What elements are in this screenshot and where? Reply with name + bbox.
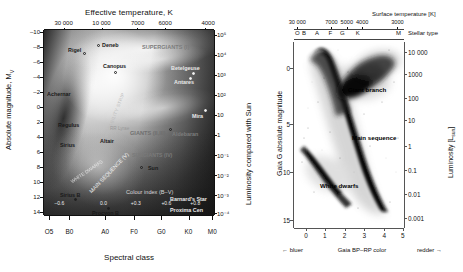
right-stellar-type-line — [294, 29, 404, 30]
star-label-deneb: Deneb — [102, 42, 118, 48]
left-region-label-rr-lyrae: RR Lyrae — [110, 126, 129, 131]
star-label-regulus: Regulus — [58, 122, 79, 128]
left-plot-area: SUPERGIANTS (I) GIANTS (II,III) SUBGIANT… — [44, 30, 214, 215]
left-y-tickmarks — [40, 30, 44, 215]
left-ci-tick: +0.6 — [161, 200, 171, 206]
stellar-type-k: K — [356, 30, 360, 36]
left-y-axis-title-text: Absolute magnitude, M — [4, 73, 13, 150]
right-lum-tick: 1000 — [408, 71, 422, 78]
star-point-deneb — [97, 44, 100, 47]
star-label-achernar: Achernar — [47, 91, 71, 97]
star-label-sirius-b: Sirius B — [60, 192, 80, 198]
right-temp-tick: 7000 — [325, 19, 337, 25]
left-spectral-tick: O5 — [45, 228, 54, 235]
right-redder-label: redder → — [417, 247, 442, 253]
star-label-rigel: Rigel — [68, 47, 81, 53]
left-top-tick: 6000 — [158, 20, 171, 26]
right-stellar-type-title: Stellar type — [408, 30, 438, 36]
left-y-tick: –10 — [30, 29, 40, 35]
right-y-axis-title: Gaia G absolute magnitude — [276, 91, 283, 176]
star-label-antares: Antares — [174, 79, 194, 85]
star-label-sirius: Sirius — [60, 142, 75, 148]
right-top-axis-title: Surface temperature [K] — [372, 10, 458, 18]
right-x-tick: 5 — [401, 232, 405, 239]
right-lum-tickmarks — [404, 42, 408, 228]
star-label-altair: Altair — [100, 138, 114, 144]
left-lum-tick: 10⁻⁴ — [217, 210, 229, 217]
star-label-aldebaran: Aldebaran — [172, 131, 198, 137]
left-lum-tick: 10⁻³ — [217, 192, 229, 199]
left-bottom-tickmarks — [44, 216, 214, 220]
hr-diagram-figure: Effective temperature, K 30 000 10 000 7… — [0, 0, 463, 272]
left-lum-tick: 10⁻¹ — [217, 152, 229, 159]
star-label-proxima-cen: Proxima Cen — [170, 207, 203, 213]
right-temp-tick: 3000 — [391, 19, 403, 25]
left-ci-tick: –0.6 — [54, 200, 64, 206]
left-y-tick: 14 — [33, 209, 40, 215]
right-y-tick: 15 — [283, 217, 290, 224]
right-label-giant-branch: Giant branch — [348, 86, 386, 93]
right-y-tick: 10 — [283, 169, 290, 176]
right-lum-tick: 0.001 — [408, 215, 424, 222]
star-label-canopus: Canopus — [103, 63, 126, 69]
star-point-aldebaran — [169, 128, 172, 131]
star-point-rigel — [83, 52, 86, 55]
star-point-sun — [140, 166, 143, 169]
right-x-tick: 3 — [363, 232, 367, 239]
right-lum-title-text: Luminosity [L — [447, 137, 454, 178]
left-y-tick: 10 — [33, 179, 40, 185]
stellar-type-f: F — [328, 30, 332, 36]
left-ci-tick: +0.3 — [131, 200, 141, 206]
right-temp-tick: 30 000 — [289, 19, 306, 25]
left-spectral-tick: A0 — [101, 228, 109, 235]
left-spectral-tick: G0 — [157, 228, 166, 235]
right-x-axis-title: Gaia BP–RP color — [338, 247, 387, 253]
left-bottom-tick-labels: O5 B0 A0 F0 G0 K0 M0 — [44, 228, 214, 238]
left-region-label-giants: GIANTS (II,III) — [130, 130, 166, 136]
right-lum-tick: 10 000 — [408, 49, 428, 56]
left-lum-tick: 10⁵ — [217, 32, 226, 38]
left-spectral-tick: K0 — [185, 228, 193, 235]
left-lum-tick: 10⁻² — [217, 172, 229, 179]
left-top-axis-title: Effective temperature, K — [44, 8, 214, 17]
left-lum-tick: 10 — [217, 112, 224, 118]
left-top-tick: 7000 — [131, 20, 144, 26]
left-region-label-supergiants: SUPERGIANTS (I) — [142, 44, 189, 50]
right-x-tickmarks — [294, 228, 404, 232]
left-bottom-axis-title: Spectral class — [44, 253, 214, 262]
stellar-type-b: B — [302, 30, 306, 36]
left-top-axis-line — [44, 29, 214, 30]
left-y-tick: –2 — [33, 89, 40, 95]
right-plot-area: Giant branch Main sequence White dwarfs — [294, 42, 404, 228]
right-luminosity-tick-labels: 10 000 1000 100 10 1 0.1 0.01 0.001 — [408, 42, 448, 228]
stellar-type-a: A — [315, 30, 319, 36]
right-temp-tick: 5000 — [341, 19, 353, 25]
star-point-canopus — [114, 71, 117, 74]
right-lum-title-sub: sun — [451, 129, 456, 137]
right-lum-tick: 0.01 — [408, 191, 420, 198]
left-top-tick: 30 000 — [54, 20, 72, 26]
left-spectral-tick: B0 — [66, 228, 74, 235]
right-x-tick: 0 — [304, 232, 308, 239]
right-x-tick-labels: 0 1 2 3 4 5 — [294, 232, 404, 242]
star-point-mira — [204, 109, 207, 112]
left-y-tick: –8 — [33, 44, 40, 50]
left-y-tick-labels: –10 –8 –6 –4 –2 0 2 4 6 8 10 12 14 — [24, 30, 40, 215]
right-x-tick: 2 — [343, 232, 347, 239]
right-x-tick: 4 — [382, 232, 386, 239]
left-y-axis-title: Absolute magnitude, MV — [4, 70, 15, 150]
star-label-mira: Mira — [192, 113, 203, 119]
star-point-antares — [189, 77, 192, 80]
right-label-main-sequence: Main sequence — [352, 134, 396, 141]
left-top-tick: 4000 — [201, 20, 214, 26]
right-lum-tick: 1 — [408, 143, 412, 150]
right-x-tick: 1 — [323, 232, 327, 239]
left-ci-tick: +0.8 — [190, 200, 200, 206]
left-lum-tick: 10³ — [217, 72, 226, 78]
left-right-tickmarks — [214, 30, 218, 215]
left-y-tick: 12 — [33, 194, 40, 200]
right-label-white-dwarfs: White dwarfs — [320, 182, 359, 189]
left-spectral-tick: F0 — [130, 228, 137, 235]
left-y-axis-title-sub: V — [9, 70, 15, 74]
right-luminosity-axis-title: Luminosity [Lsun] — [447, 127, 456, 178]
